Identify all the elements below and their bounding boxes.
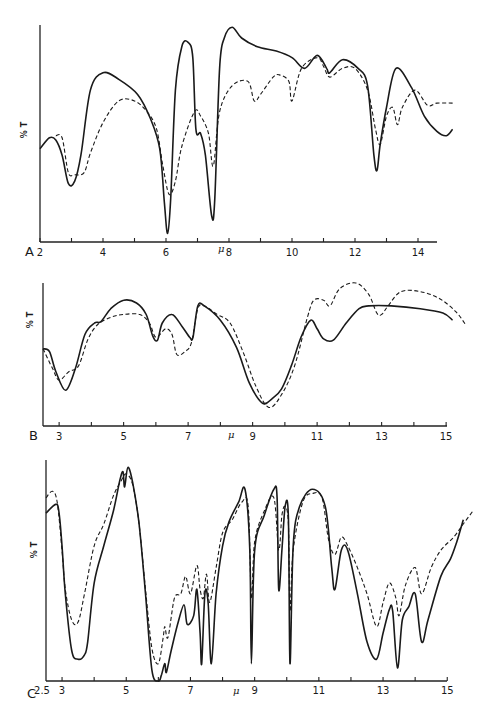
x-tick-label: 3 [59, 685, 65, 696]
x-tick-label: 11 [312, 685, 325, 696]
panel-a-mu-label: μ [218, 243, 225, 254]
x-tick-label: 9 [251, 685, 257, 696]
x-tick-label: 12 [349, 247, 362, 258]
panel-c: 2.53579111315 C % T μ [27, 460, 473, 701]
panel-c-letter: C [27, 686, 36, 701]
panel-a-y-label: % T [20, 121, 29, 138]
x-tick-label: 10 [286, 247, 299, 258]
x-tick-label: 5 [120, 431, 126, 442]
panel-a-solid-curve [40, 27, 453, 233]
x-tick-label: 2 [37, 247, 43, 258]
panel-c-tick-labels: 2.53579111315 [34, 685, 454, 696]
panel-c-y-label: % T [30, 541, 39, 558]
x-tick-label: 6 [163, 247, 169, 258]
x-tick-label: 4 [100, 247, 106, 258]
x-tick-label: 9 [249, 431, 255, 442]
panel-a-tick-labels: 2468101214 [37, 247, 425, 258]
x-tick-label: 13 [377, 685, 390, 696]
x-tick-label: 3 [56, 431, 62, 442]
x-tick-label: 11 [311, 431, 324, 442]
panel-b-solid-curve [43, 300, 453, 404]
x-tick-label: 5 [123, 685, 129, 696]
x-tick-label: 7 [185, 431, 191, 442]
panel-a-letter: A [25, 244, 34, 259]
x-tick-label: 15 [440, 431, 453, 442]
ir-spectra-figure: 2468101214 A % T μ 3579111315 B % T μ 2.… [0, 0, 492, 720]
panel-c-dashed-curve [46, 474, 473, 664]
panel-b: 3579111315 B % T μ [26, 283, 466, 443]
x-tick-label: 8 [226, 247, 232, 258]
panel-b-y-label: % T [26, 311, 35, 328]
x-tick-label: 15 [441, 685, 454, 696]
panel-b-dashed-curve [43, 283, 466, 408]
panel-b-tick-labels: 3579111315 [56, 431, 453, 442]
panel-a: 2468101214 A % T μ [20, 25, 453, 259]
panel-b-mu-label: μ [228, 429, 235, 440]
panel-b-letter: B [29, 428, 38, 443]
panel-c-solid-curve [46, 467, 463, 681]
x-tick-label: 2.5 [34, 685, 50, 696]
x-tick-label: 14 [412, 247, 425, 258]
panel-c-mu-label: μ [233, 685, 240, 696]
x-tick-label: 13 [375, 431, 388, 442]
x-tick-label: 7 [187, 685, 193, 696]
panel-a-dashed-curve [56, 58, 453, 195]
